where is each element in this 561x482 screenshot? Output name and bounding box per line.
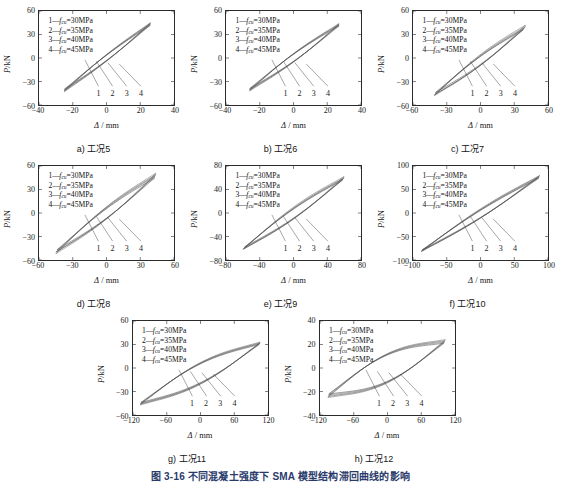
legend-item: 3—fcu=40MPa	[48, 35, 92, 45]
legend-item: 2—fcu=35MPa	[329, 336, 373, 346]
legend-item: 4—fcu=45MPa	[48, 45, 92, 55]
panel-e: −80−4004080P/kN1—fcu=30MPa2—fcu=35MPa3—f…	[187, 155, 374, 310]
leader-line-4	[213, 374, 235, 396]
y-tick-label: 30	[189, 30, 225, 39]
plot-box-d: 1—fcu=30MPa2—fcu=35MPa3—fcu=40MPa4—fcu=4…	[38, 165, 175, 261]
x-tick-label: 0	[292, 106, 296, 115]
y-tick-label: 30	[376, 30, 412, 39]
leader-line-4	[493, 64, 515, 86]
leader-label-3: 3	[405, 398, 409, 407]
plot-box-c: 1—fcu=30MPa2—fcu=35MPa3—fcu=40MPa4—fcu=4…	[412, 10, 549, 106]
legend-item: 2—fcu=35MPa	[422, 26, 466, 36]
leader-label-4: 4	[419, 398, 423, 407]
x-tick-label: −40	[32, 106, 45, 115]
legend-item: 3—fcu=40MPa	[142, 345, 186, 355]
panel-caption-f: f) 工况10	[374, 297, 561, 310]
x-tick-label: −60	[32, 261, 45, 270]
panel-f: −100−50050100P/kN1—fcu=30MPa2—fcu=35MPa3…	[374, 155, 561, 310]
leader-line-3	[295, 63, 314, 87]
leader-label-2: 2	[485, 243, 489, 252]
y-tick-label: −50	[376, 233, 412, 242]
leader-label-4: 4	[139, 88, 143, 97]
x-axis-label: Δ / mm	[319, 430, 456, 440]
y-tick-label: 20	[283, 340, 319, 349]
leader-label-1: 1	[283, 243, 287, 252]
figure-title: 图 3-16 不同混凝土强度下 SMA 模型结构滞回曲线的影响	[0, 470, 561, 482]
legend-item: 1—fcu=30MPa	[142, 326, 186, 336]
plot-box-a: 1—fcu=30MPa2—fcu=35MPa3—fcu=40MPa4—fcu=4…	[38, 10, 175, 106]
x-tick-label: −40	[219, 106, 232, 115]
panel-a: −60−3003060P/kN1—fcu=30MPa2—fcu=35MPa3—f…	[0, 0, 187, 155]
panel-caption-h: h) 工况12	[281, 452, 468, 465]
leader-label-2: 2	[391, 398, 395, 407]
x-axis-ticks: −60−3003060	[412, 106, 549, 118]
y-axis-label: P/kN	[189, 210, 199, 228]
leader-label-3: 3	[218, 398, 222, 407]
leader-line-3	[108, 218, 127, 242]
x-tick-label: 40	[324, 261, 332, 270]
legend-item: 2—fcu=35MPa	[422, 181, 466, 191]
leader-label-4: 4	[513, 88, 517, 97]
y-tick-label: 40	[283, 316, 319, 325]
y-tick-label: −30	[96, 388, 132, 397]
leader-line-2	[470, 216, 486, 241]
leader-label-1: 1	[470, 243, 474, 252]
y-tick-label: −40	[189, 233, 225, 242]
x-tick-label: 0	[479, 106, 483, 115]
y-tick-label: 60	[2, 6, 38, 15]
x-tick-label: −100	[404, 261, 421, 270]
plot-area-d: −60−3003060P/kN1—fcu=30MPa2—fcu=35MPa3—f…	[0, 155, 187, 283]
x-tick-label: 60	[417, 416, 425, 425]
leader-line-1	[85, 60, 99, 86]
legend-item: 4—fcu=45MPa	[142, 355, 186, 365]
panel-b: −60−3003060P/kN1—fcu=30MPa2—fcu=35MPa3—f…	[187, 0, 374, 155]
x-axis-label: Δ / mm	[412, 275, 549, 285]
x-tick-label: 0	[385, 416, 389, 425]
leader-label-1: 1	[96, 243, 100, 252]
leader-label-3: 3	[499, 243, 503, 252]
y-axis-label: P/kN	[189, 55, 199, 73]
legend-item: 3—fcu=40MPa	[235, 190, 279, 200]
legend-item: 4—fcu=45MPa	[422, 45, 466, 55]
x-axis-ticks: −40−2002040	[225, 106, 362, 118]
legend-item: 4—fcu=45MPa	[48, 200, 92, 210]
leader-label-4: 4	[139, 243, 143, 252]
leader-line-3	[108, 63, 127, 87]
x-tick-label: 20	[324, 106, 332, 115]
x-tick-label: 60	[230, 416, 238, 425]
x-tick-label: 80	[358, 261, 366, 270]
legend-item: 1—fcu=30MPa	[48, 171, 92, 181]
leader-label-2: 2	[111, 243, 115, 252]
x-tick-label: −20	[253, 106, 266, 115]
x-tick-label: −60	[406, 106, 419, 115]
y-axis-label: P/kN	[2, 55, 12, 73]
x-tick-label: 30	[511, 106, 519, 115]
legend-item: 3—fcu=40MPa	[235, 35, 279, 45]
x-tick-label: −50	[440, 261, 453, 270]
panel-caption-e: e) 工况9	[187, 297, 374, 310]
x-axis-label: Δ / mm	[225, 120, 362, 130]
leader-label-1: 1	[96, 88, 100, 97]
x-axis-label: Δ / mm	[38, 275, 175, 285]
legend-item: 3—fcu=40MPa	[422, 190, 466, 200]
x-tick-label: 40	[358, 106, 366, 115]
leader-line-4	[306, 219, 328, 241]
leader-line-4	[119, 64, 141, 86]
panel-d: −60−3003060P/kN1—fcu=30MPa2—fcu=35MPa3—f…	[0, 155, 187, 310]
leader-label-2: 2	[204, 398, 208, 407]
leader-label-3: 3	[125, 243, 129, 252]
plot-box-f: 1—fcu=30MPa2—fcu=35MPa3—fcu=40MPa4—fcu=4…	[412, 165, 549, 261]
x-tick-label: 30	[137, 261, 145, 270]
x-tick-label: 40	[171, 106, 179, 115]
y-tick-label: 60	[189, 6, 225, 15]
figure-sheet: −60−3003060P/kN1—fcu=30MPa2—fcu=35MPa3—f…	[0, 0, 561, 482]
panel-row-3: −60−3003060P/kN1—fcu=30MPa2—fcu=35MPa3—f…	[0, 310, 561, 465]
x-tick-label: −60	[346, 416, 359, 425]
y-tick-label: −20	[283, 388, 319, 397]
legend-item: 2—fcu=35MPa	[48, 181, 92, 191]
leader-label-2: 2	[111, 88, 115, 97]
y-tick-label: 30	[2, 30, 38, 39]
legend-item: 1—fcu=30MPa	[329, 326, 373, 336]
leader-line-4	[400, 374, 422, 396]
y-tick-label: −30	[2, 233, 38, 242]
